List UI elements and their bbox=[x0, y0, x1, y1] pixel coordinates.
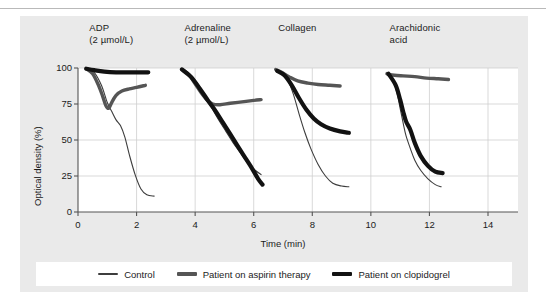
legend-item-2[interactable]: Patient on aspirin therapy bbox=[177, 269, 311, 280]
y-tick-label: 50 bbox=[40, 134, 72, 145]
legend-label: Patient on aspirin therapy bbox=[203, 269, 311, 280]
x-tick-label: 0 bbox=[63, 219, 93, 230]
x-tick-label: 8 bbox=[297, 219, 327, 230]
legend-label: Control bbox=[124, 269, 155, 280]
chart-legend: ControlPatient on aspirin therapyPatient… bbox=[36, 262, 512, 286]
y-tick-label: 100 bbox=[40, 62, 72, 73]
aggregometry-chart bbox=[0, 0, 546, 305]
panel-title-1: ADP (2 µmol/L) bbox=[89, 22, 133, 45]
legend-swatch-icon bbox=[177, 272, 197, 275]
x-tick-label: 4 bbox=[180, 219, 210, 230]
x-tick-label: 2 bbox=[122, 219, 152, 230]
legend-swatch-icon bbox=[332, 272, 352, 276]
x-tick-label: 14 bbox=[473, 219, 503, 230]
legend-item-1[interactable]: Control bbox=[98, 269, 155, 280]
x-axis-label: Time (min) bbox=[0, 238, 546, 249]
y-tick-label: 0 bbox=[40, 206, 72, 217]
y-tick-label: 25 bbox=[40, 170, 72, 181]
x-tick-label: 12 bbox=[414, 219, 444, 230]
x-tick-label: 6 bbox=[239, 219, 269, 230]
panel-title-3: Collagen bbox=[278, 22, 316, 34]
panel-title-2: Adrenaline (2 µmol/L) bbox=[185, 22, 231, 45]
legend-label: Patient on clopidogrel bbox=[358, 269, 449, 280]
legend-swatch-icon bbox=[98, 273, 118, 275]
legend-item-3[interactable]: Patient on clopidogrel bbox=[332, 269, 449, 280]
y-tick-label: 75 bbox=[40, 98, 72, 109]
x-tick-label: 10 bbox=[356, 219, 386, 230]
figure-root: Optical density (%) Time (min) 025507510… bbox=[0, 0, 546, 305]
panel-title-4: Arachidonic acid bbox=[390, 22, 441, 45]
